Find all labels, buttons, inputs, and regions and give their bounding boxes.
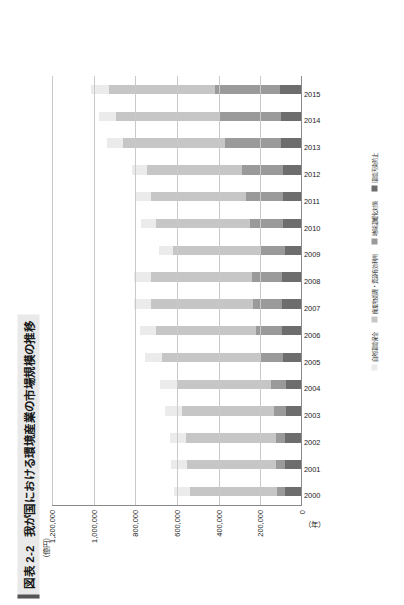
gridline (94, 76, 95, 505)
legend-item[interactable]: 廃棄物処理・資源有効利用 (371, 254, 378, 323)
bar-segment[interactable] (282, 299, 301, 309)
stacked-bar[interactable] (99, 112, 301, 122)
legend-label: 自然環境保全 (371, 332, 378, 362)
bar-segment[interactable] (190, 487, 278, 497)
x-axis-tick-label: 2012 (304, 170, 320, 179)
x-axis-tick-label: 2005 (304, 358, 320, 367)
legend-swatch-icon (371, 317, 377, 323)
legend-label: 地球温暖化対策 (371, 201, 378, 236)
page-title: 我が国における環境産業の市場規模の推移 (21, 321, 37, 538)
bar-segment[interactable] (283, 165, 301, 175)
bar-segment[interactable] (285, 246, 301, 256)
bar-segment[interactable] (151, 299, 253, 309)
bar-segment[interactable] (260, 246, 285, 256)
gridline (219, 76, 220, 505)
bar-segment[interactable] (253, 299, 282, 309)
bar-segment[interactable] (282, 272, 301, 282)
bar-segment[interactable] (99, 112, 116, 122)
bar-segment[interactable] (285, 460, 301, 470)
bar-segment[interactable] (281, 112, 301, 122)
x-axis-tick-label: 2010 (304, 224, 320, 233)
gridline (52, 76, 53, 505)
bar-segment[interactable] (246, 192, 283, 202)
legend-item[interactable]: 地球温暖化対策 (371, 201, 378, 245)
stacked-bar[interactable] (141, 219, 301, 229)
bar-segment[interactable] (107, 138, 123, 148)
stacked-bar[interactable] (140, 326, 301, 336)
bar-segment[interactable] (141, 219, 156, 229)
bar-segment[interactable] (277, 487, 285, 497)
bar-segment[interactable] (165, 406, 182, 416)
stacked-bar[interactable] (170, 433, 301, 443)
legend-label: 廃棄物処理・資源有効利用 (371, 254, 378, 314)
x-axis-unit-label: （年） (304, 518, 325, 529)
bar-segment[interactable] (280, 85, 301, 95)
bar-segment[interactable] (174, 487, 190, 497)
y-axis-tick-label: 200,000 (256, 510, 265, 537)
bar-segment[interactable] (156, 219, 250, 229)
bar-segment[interactable] (134, 272, 151, 282)
bar-segment[interactable] (145, 353, 162, 363)
bar-segment[interactable] (225, 138, 281, 148)
stacked-bar[interactable] (159, 246, 301, 256)
bar-segment[interactable] (260, 353, 283, 363)
bar-segment[interactable] (283, 192, 301, 202)
bar-segment[interactable] (285, 433, 301, 443)
y-axis-tick-label: 1,000,000 (89, 510, 98, 543)
bar-segment[interactable] (252, 272, 282, 282)
stacked-bar[interactable] (165, 406, 301, 416)
stacked-bar[interactable] (134, 272, 301, 282)
bar-segment[interactable] (274, 406, 285, 416)
figure-page: 図表 2-2 我が国における環境産業の市場規模の推移 2000200120022… (0, 0, 404, 605)
bar-segment[interactable] (276, 433, 286, 443)
bar-segment[interactable] (159, 246, 174, 256)
bar-segment[interactable] (286, 380, 301, 390)
stacked-bar[interactable] (145, 353, 301, 363)
bar-segment[interactable] (215, 85, 280, 95)
bar-segment[interactable] (242, 165, 283, 175)
bar-segment[interactable] (173, 246, 259, 256)
stacked-bar[interactable] (174, 487, 301, 497)
bar-segment[interactable] (271, 380, 286, 390)
bar-segment[interactable] (250, 219, 283, 229)
bar-segment[interactable] (171, 460, 187, 470)
bar-segment[interactable] (283, 219, 301, 229)
gridline (135, 76, 136, 505)
bar-segment[interactable] (116, 112, 220, 122)
bar-segment[interactable] (147, 165, 242, 175)
bar-segment[interactable] (140, 326, 157, 336)
stacked-bar[interactable] (134, 299, 301, 309)
gridline (177, 76, 178, 505)
bar-segment[interactable] (282, 326, 301, 336)
bar-segment[interactable] (285, 487, 301, 497)
bar-segment[interactable] (220, 112, 281, 122)
legend-item[interactable]: 環境汚染防止 (371, 153, 378, 192)
bar-segment[interactable] (109, 85, 215, 95)
bar-segment[interactable] (156, 326, 256, 336)
title-bar: 図表 2-2 我が国における環境産業の市場規模の推移 (18, 315, 40, 599)
bar-segment[interactable] (177, 380, 271, 390)
bar-segment[interactable] (135, 192, 150, 202)
bar-segment[interactable] (151, 272, 252, 282)
x-axis-tick-label: 2003 (304, 411, 320, 420)
stacked-bar[interactable] (171, 460, 301, 470)
bar-segment[interactable] (151, 192, 246, 202)
stacked-bar[interactable] (91, 85, 301, 95)
bar-segment[interactable] (123, 138, 224, 148)
bar-segment[interactable] (187, 460, 276, 470)
bar-segment[interactable] (186, 433, 276, 443)
stacked-bar[interactable] (160, 380, 301, 390)
bar-segment[interactable] (283, 353, 301, 363)
bar-segment[interactable] (286, 406, 301, 416)
x-axis-tick-label: 2004 (304, 384, 320, 393)
y-axis-tick-label: 800,000 (131, 510, 140, 537)
bar-segment[interactable] (160, 380, 177, 390)
bar-segment[interactable] (281, 138, 301, 148)
x-axis-tick-label: 2002 (304, 438, 320, 447)
bar-segment[interactable] (170, 433, 186, 443)
legend-item[interactable]: 自然環境保全 (371, 332, 378, 371)
bar-segment[interactable] (134, 299, 151, 309)
stacked-bar[interactable] (132, 165, 301, 175)
bar-segment[interactable] (276, 460, 285, 470)
gridline (260, 76, 261, 505)
